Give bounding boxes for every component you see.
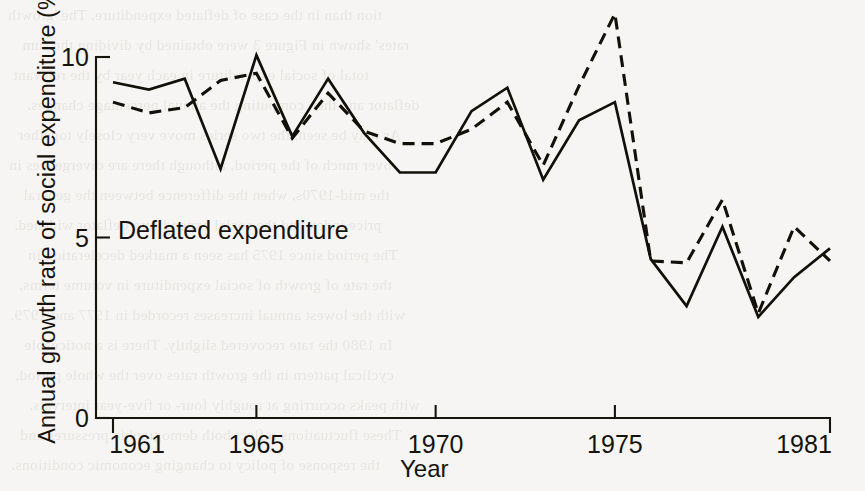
series-line-dashed (113, 14, 830, 314)
y-axis-title: Annual growth rate of social expenditure… (36, 24, 60, 444)
series-line-solid (113, 55, 830, 317)
y-tick-label-10: 10 (61, 45, 89, 70)
x-tick-label-1965: 1965 (229, 432, 285, 457)
figure-container: tion than in the case of deflated expend… (0, 0, 865, 491)
x-tick-label-1970: 1970 (408, 432, 464, 457)
y-tick-label-0: 0 (75, 406, 89, 431)
x-tick-label-1961: 1961 (109, 432, 165, 457)
x-tick-label-1981: 1981 (776, 432, 832, 457)
y-tick-label-5: 5 (75, 226, 89, 251)
chart-series (113, 14, 830, 317)
x-axis-title: Year (400, 457, 449, 481)
chart-plot-area (0, 0, 865, 491)
x-axis-line (113, 418, 830, 432)
x-tick-label-1975: 1975 (587, 432, 643, 457)
deflated-expenditure-annotation: Deflated expenditure (118, 216, 349, 245)
